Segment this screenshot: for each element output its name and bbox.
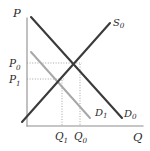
quantity-label-q1: Q1 [55,130,68,145]
guide-lines-group [27,63,82,126]
curve-label-d1: D1 [94,107,108,120]
quantity-label-q0: Q0 [74,130,88,145]
curve-label-s0-subscript: 0 [120,21,125,30]
price-label-p0: P0 [8,57,21,72]
price-label-p1-subscript: 1 [16,79,21,88]
y-axis-title: P [12,6,21,20]
curve-label-d1-subscript: 1 [103,111,108,120]
price-label-p1: P1 [8,73,21,88]
curves-group [22,17,122,122]
supply-demand-diagram: P Q P0 P1 Q1 Q0 S0 D0 D1 [0,0,150,151]
curve-label-s0: S0 [113,17,125,30]
quantity-label-q0-subscript: 0 [83,136,88,145]
curve-label-d0: D0 [123,108,137,121]
curve-label-d0-subscript: 0 [132,112,137,121]
diagram-canvas: P Q P0 P1 Q1 Q0 S0 D0 D1 [0,0,150,151]
price-label-p0-subscript: 0 [16,63,21,72]
quantity-label-q1-subscript: 1 [64,136,69,145]
price-tick-labels: P0 P1 [8,57,21,88]
quantity-tick-labels: Q1 Q0 [55,130,88,145]
x-axis-title: Q [133,130,143,144]
demand-curve-d1 [31,52,90,118]
